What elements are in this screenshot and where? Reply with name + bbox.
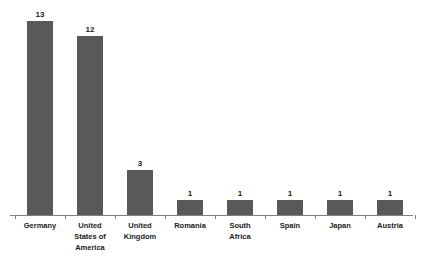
bar bbox=[127, 170, 153, 215]
bar-group: 1 bbox=[215, 8, 265, 215]
bar bbox=[27, 21, 53, 215]
x-axis-category-labels: GermanyUnitedStates ofAmericaUnitedKingd… bbox=[10, 220, 415, 264]
bar-value-label: 13 bbox=[36, 10, 45, 19]
bar-group: 12 bbox=[65, 8, 115, 215]
x-axis-tick bbox=[265, 215, 266, 219]
category-label-line: Austria bbox=[365, 220, 415, 231]
category-label-line: South bbox=[215, 220, 265, 231]
bar-group: 13 bbox=[15, 8, 65, 215]
x-axis-category-label: Japan bbox=[315, 220, 365, 231]
x-axis-tick bbox=[65, 215, 66, 219]
category-label-line: Kingdom bbox=[115, 231, 165, 242]
category-label-line: United bbox=[115, 220, 165, 231]
bar-chart: 1312311111 GermanyUnitedStates ofAmerica… bbox=[0, 0, 425, 264]
x-axis-tick bbox=[215, 215, 216, 219]
bar-value-label: 1 bbox=[338, 189, 342, 198]
category-label-line: United bbox=[65, 220, 115, 231]
category-label-line: Africa bbox=[215, 231, 265, 242]
bar bbox=[177, 200, 203, 215]
bar-group: 1 bbox=[365, 8, 415, 215]
x-axis-category-label: UnitedKingdom bbox=[115, 220, 165, 242]
bar bbox=[377, 200, 403, 215]
bar-group: 1 bbox=[265, 8, 315, 215]
category-label-line: Spain bbox=[265, 220, 315, 231]
bar-group: 1 bbox=[165, 8, 215, 215]
category-label-line: America bbox=[65, 242, 115, 253]
x-axis-tick bbox=[415, 215, 416, 219]
bar bbox=[77, 36, 103, 215]
bar bbox=[327, 200, 353, 215]
x-axis-line bbox=[10, 215, 413, 216]
bar-value-label: 1 bbox=[288, 189, 292, 198]
category-label-line: Germany bbox=[15, 220, 65, 231]
category-label-line: Romania bbox=[165, 220, 215, 231]
category-label-line: Japan bbox=[315, 220, 365, 231]
x-axis-tick bbox=[315, 215, 316, 219]
x-axis-category-label: SouthAfrica bbox=[215, 220, 265, 242]
bar bbox=[227, 200, 253, 215]
bar-group: 1 bbox=[315, 8, 365, 215]
bar-group: 3 bbox=[115, 8, 165, 215]
bar-value-label: 1 bbox=[388, 189, 392, 198]
x-axis-category-label: Austria bbox=[365, 220, 415, 231]
bar-value-label: 1 bbox=[238, 189, 242, 198]
x-axis-tick bbox=[165, 215, 166, 219]
plot-area: 1312311111 bbox=[10, 8, 415, 215]
x-axis-category-label: Germany bbox=[15, 220, 65, 231]
bar-value-label: 3 bbox=[138, 159, 142, 168]
x-axis-tick bbox=[365, 215, 366, 219]
x-axis-category-label: UnitedStates ofAmerica bbox=[65, 220, 115, 253]
x-axis-category-label: Romania bbox=[165, 220, 215, 231]
bar-value-label: 1 bbox=[188, 189, 192, 198]
bar bbox=[277, 200, 303, 215]
bar-value-label: 12 bbox=[86, 25, 95, 34]
x-axis-tick bbox=[15, 215, 16, 219]
x-axis-tick bbox=[115, 215, 116, 219]
x-axis-category-label: Spain bbox=[265, 220, 315, 231]
category-label-line: States of bbox=[65, 231, 115, 242]
